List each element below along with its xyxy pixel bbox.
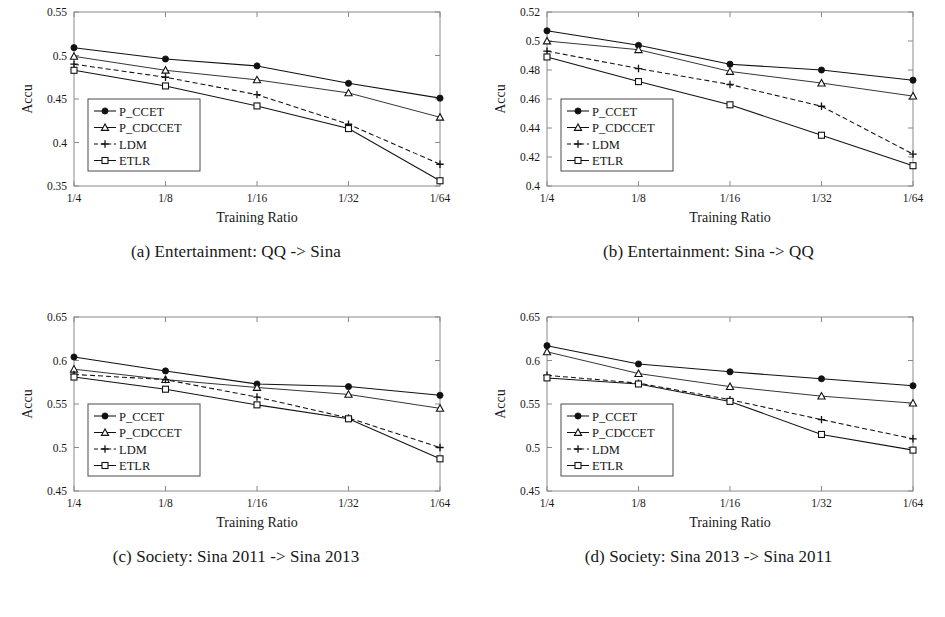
legend-d: P_CCETP_CDCCETLDMETLR: [561, 404, 673, 476]
chart-svg-c: 0.450.50.550.60.651/41/81/161/321/64Trai…: [16, 305, 456, 543]
y-tick-label: 0.65: [519, 311, 539, 323]
x-tick-label: 1/8: [631, 192, 646, 204]
chart-panel-b: 0.40.420.440.460.480.50.521/41/81/161/32…: [472, 0, 945, 305]
y-tick-label: 0.55: [47, 6, 67, 18]
y-tick-label: 0.46: [519, 93, 539, 105]
marker-square: [910, 163, 916, 169]
data-point: [727, 102, 733, 108]
marker-circle: [345, 384, 351, 390]
data-point: [71, 45, 77, 51]
legend-marker: [102, 413, 108, 419]
y-tick-label: 0.48: [519, 64, 539, 76]
x-tick-label: 1/32: [811, 497, 832, 509]
data-point: [71, 374, 77, 380]
y-tick-label: 0.4: [525, 180, 540, 192]
data-point: [727, 398, 733, 404]
marker-circle: [818, 376, 824, 382]
data-point: [909, 383, 915, 389]
marker-plus: [253, 91, 260, 98]
marker-circle: [437, 95, 443, 101]
x-tick-label: 1/16: [719, 192, 740, 204]
chart-svg-b: 0.40.420.440.460.480.50.521/41/81/161/32…: [489, 0, 929, 238]
y-tick-label: 0.44: [519, 122, 539, 134]
legend-label-ldm: LDM: [119, 138, 147, 152]
x-tick-label: 1/32: [338, 497, 359, 509]
marker-square: [163, 83, 169, 89]
marker-square: [102, 463, 108, 469]
legend-label-etlr: ETLR: [592, 154, 624, 168]
legend-marker: [102, 463, 108, 469]
y-tick-label: 0.6: [525, 355, 540, 367]
data-point: [817, 103, 824, 110]
chart-panel-d: 0.450.50.550.60.651/41/81/161/321/64Trai…: [472, 305, 945, 617]
data-point: [635, 79, 641, 85]
legend-label-p-ccet: P_CCET: [119, 410, 165, 424]
legend-marker: [575, 463, 581, 469]
x-tick-label: 1/64: [430, 192, 451, 204]
data-point: [346, 416, 352, 422]
data-point: [253, 91, 260, 98]
data-point: [437, 392, 443, 398]
marker-plus: [817, 416, 824, 423]
marker-square: [727, 102, 733, 108]
data-point: [635, 381, 641, 387]
data-point: [436, 161, 443, 168]
data-point: [909, 435, 916, 442]
legend-label-p-cdccet: P_CDCCET: [592, 121, 655, 135]
marker-plus: [909, 435, 916, 442]
marker-plus: [436, 444, 443, 451]
series-path: [547, 352, 913, 403]
x-axis-title: Training Ratio: [689, 515, 771, 530]
data-point: [543, 28, 549, 34]
y-tick-label: 0.65: [47, 311, 67, 323]
marker-square: [254, 402, 260, 408]
y-tick-label: 0.5: [525, 442, 540, 454]
marker-square: [163, 386, 169, 392]
marker-circle: [574, 413, 580, 419]
data-point: [818, 431, 824, 437]
marker-square: [254, 103, 260, 109]
x-tick-label: 1/64: [902, 497, 923, 509]
legend-marker: [102, 108, 108, 114]
data-point: [71, 354, 77, 360]
plot-area-c: 0.450.50.550.60.651/41/81/161/321/64Trai…: [16, 305, 456, 543]
data-point: [345, 384, 351, 390]
plot-area-d: 0.450.50.550.60.651/41/81/161/321/64Trai…: [489, 305, 929, 543]
data-point: [163, 83, 169, 89]
series-p-cdccet: [543, 37, 916, 99]
plot-area-a: 0.350.40.450.50.551/41/81/161/321/64Trai…: [16, 0, 456, 238]
data-point: [254, 402, 260, 408]
data-point: [635, 361, 641, 367]
marker-square: [437, 178, 443, 184]
y-tick-label: 0.45: [47, 93, 67, 105]
marker-circle: [71, 45, 77, 51]
marker-circle: [102, 413, 108, 419]
marker-circle: [909, 383, 915, 389]
marker-plus: [817, 103, 824, 110]
marker-square: [544, 54, 550, 60]
data-point: [345, 80, 351, 86]
x-tick-label: 1/16: [247, 497, 268, 509]
marker-square: [635, 79, 641, 85]
marker-square: [575, 463, 581, 469]
data-point: [726, 61, 732, 67]
marker-square: [910, 447, 916, 453]
marker-circle: [726, 369, 732, 375]
marker-circle: [254, 63, 260, 69]
data-point: [162, 368, 168, 374]
series-path: [74, 48, 440, 98]
marker-square: [102, 158, 108, 164]
data-point: [543, 348, 550, 354]
y-tick-label: 0.55: [519, 398, 539, 410]
y-tick-label: 0.45: [47, 485, 67, 497]
x-tick-label: 1/16: [719, 497, 740, 509]
marker-circle: [543, 28, 549, 34]
data-point: [436, 444, 443, 451]
legend-c: P_CCETP_CDCCETLDMETLR: [88, 404, 200, 476]
data-point: [544, 375, 550, 381]
data-point: [70, 53, 77, 59]
data-point: [163, 386, 169, 392]
chart-svg-a: 0.350.40.450.50.551/41/81/161/321/64Trai…: [16, 0, 456, 238]
marker-square: [346, 126, 352, 132]
x-tick-label: 1/16: [247, 192, 268, 204]
